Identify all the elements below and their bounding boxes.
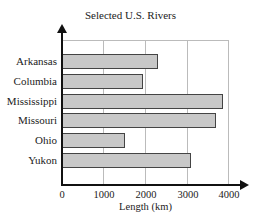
bar-mississippi bbox=[62, 94, 223, 109]
category-label-yukon: Yukon bbox=[28, 154, 57, 166]
x-tick-1000: 1000 bbox=[94, 189, 115, 200]
y-axis-arrow-icon bbox=[57, 24, 67, 33]
category-label-missouri: Missouri bbox=[18, 114, 57, 126]
category-label-ohio: Ohio bbox=[35, 134, 57, 146]
category-label-arkansas: Arkansas bbox=[16, 55, 57, 67]
bar-arkansas bbox=[62, 54, 158, 69]
bar-missouri bbox=[62, 113, 216, 128]
x-axis bbox=[61, 184, 244, 186]
x-axis-label: Length (km) bbox=[62, 201, 229, 212]
bar-columbia bbox=[62, 74, 143, 89]
x-tick-4000: 4000 bbox=[219, 189, 240, 200]
chart-title: Selected U.S. Rivers bbox=[0, 9, 261, 21]
y-axis bbox=[61, 28, 63, 185]
bar-ohio bbox=[62, 133, 125, 148]
x-tick-0: 0 bbox=[59, 189, 64, 200]
x-axis-arrow-icon bbox=[240, 180, 249, 190]
x-tick-3000: 3000 bbox=[178, 189, 199, 200]
bar-yukon bbox=[62, 153, 191, 168]
category-label-columbia: Columbia bbox=[14, 75, 57, 87]
x-tick-2000: 2000 bbox=[136, 189, 157, 200]
category-label-mississippi: Mississippi bbox=[7, 95, 57, 107]
